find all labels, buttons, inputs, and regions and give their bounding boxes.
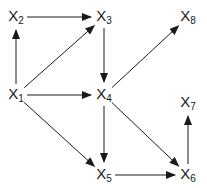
node-x5: X5 [96,166,112,184]
node-x4: X4 [96,86,112,104]
edge-x4-x8 [112,26,178,88]
edge-x4-x6 [112,103,179,166]
edge-x1-x5 [24,102,94,166]
node-x7: X7 [180,94,196,112]
node-x2: X2 [8,8,24,26]
node-x3: X3 [96,8,112,26]
edge-x1-x3 [24,26,94,88]
node-x8: X8 [180,8,196,26]
node-x6: X6 [180,166,196,184]
node-x1: X1 [8,86,24,104]
causal-graph: X1 X2 X3 X4 X5 X6 X7 X8 [0,0,207,188]
